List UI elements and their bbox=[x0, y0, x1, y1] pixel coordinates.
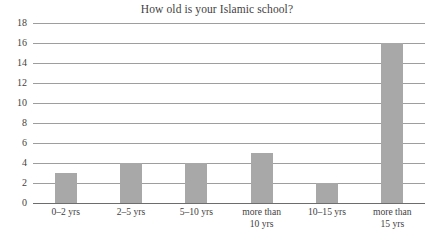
y-axis-tick-label: 8 bbox=[22, 118, 27, 128]
y-axis-tick-label: 14 bbox=[17, 58, 27, 68]
x-axis-label-line: 10–15 yrs bbox=[290, 206, 364, 218]
bar bbox=[251, 153, 273, 203]
y-axis-tick-label: 10 bbox=[17, 98, 27, 108]
y-axis-tick-label: 4 bbox=[22, 158, 27, 168]
bar bbox=[55, 173, 77, 203]
y-axis-tick-label: 6 bbox=[22, 138, 27, 148]
x-axis-label-line: 15 yrs bbox=[355, 218, 429, 230]
x-axis-label: more than15 yrs bbox=[355, 206, 429, 229]
bar-chart: How old is your Islamic school? 02468101… bbox=[0, 0, 434, 246]
x-axis-label-line: 2–5 yrs bbox=[94, 206, 168, 218]
x-axis-label: 2–5 yrs bbox=[94, 206, 168, 218]
x-axis-label: more than10 yrs bbox=[225, 206, 299, 229]
bar-series bbox=[33, 23, 425, 203]
x-axis-label: 10–15 yrs bbox=[290, 206, 364, 218]
bar bbox=[316, 183, 338, 203]
y-axis-tick-label: 18 bbox=[17, 18, 27, 28]
x-axis-label-line: 10 yrs bbox=[225, 218, 299, 230]
y-axis-tick-label: 0 bbox=[22, 198, 27, 208]
bar bbox=[120, 163, 142, 203]
bar bbox=[381, 43, 403, 203]
x-axis-labels: 0–2 yrs2–5 yrs5–10 yrsmore than10 yrs10–… bbox=[33, 206, 425, 244]
chart-title: How old is your Islamic school? bbox=[0, 2, 434, 16]
y-axis-tick-label: 12 bbox=[17, 78, 27, 88]
x-axis-label-line: 0–2 yrs bbox=[29, 206, 103, 218]
x-axis-label-line: 5–10 yrs bbox=[159, 206, 233, 218]
y-axis-tick-label: 16 bbox=[17, 38, 27, 48]
x-axis-label-line: more than bbox=[225, 206, 299, 218]
x-axis-label: 0–2 yrs bbox=[29, 206, 103, 218]
x-axis-label: 5–10 yrs bbox=[159, 206, 233, 218]
plot-area: 024681012141618 bbox=[33, 23, 425, 203]
bar bbox=[185, 163, 207, 203]
x-axis-label-line: more than bbox=[355, 206, 429, 218]
axis-baseline bbox=[33, 203, 425, 204]
y-axis-tick-label: 2 bbox=[22, 178, 27, 188]
